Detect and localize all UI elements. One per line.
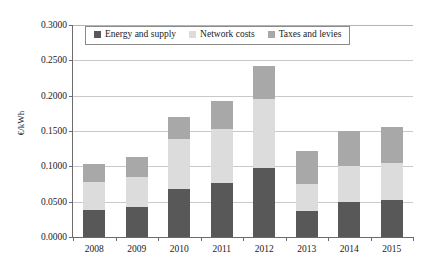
x-axis-tick-label: 2009 (127, 244, 146, 254)
x-axis-tick-label: 2014 (340, 244, 359, 254)
y-axis-tick-label: 0.1000 (41, 161, 67, 171)
bar-stack[interactable] (338, 131, 360, 237)
x-axis-tick (413, 237, 414, 241)
bar-segment[interactable] (338, 131, 360, 166)
bar-segment[interactable] (83, 164, 105, 182)
bar-group[interactable] (371, 25, 414, 237)
legend-item-label: Energy and supply (105, 30, 176, 40)
y-axis-tick-label: 0.0000 (41, 232, 67, 242)
y-axis-tick-label: 0.0500 (41, 197, 67, 207)
y-axis-tick-label: 0.2000 (41, 91, 67, 101)
bar-stack[interactable] (168, 117, 190, 237)
bar-group[interactable] (328, 25, 371, 237)
bar-group[interactable] (73, 25, 116, 237)
bar-segment[interactable] (211, 101, 233, 129)
chart-legend: Energy and supplyNetwork costsTaxes and … (85, 26, 350, 45)
x-axis-tick-label: 2015 (382, 244, 401, 254)
bar-stack[interactable] (253, 66, 275, 237)
bar-segment[interactable] (338, 166, 360, 202)
bar-stack[interactable] (381, 127, 403, 237)
bar-segment[interactable] (83, 210, 105, 237)
x-axis-tick (201, 237, 202, 241)
x-axis-tick-label: 2010 (170, 244, 189, 254)
x-axis-tick (286, 237, 287, 241)
bar-segment[interactable] (168, 117, 190, 139)
bar-group[interactable] (286, 25, 329, 237)
bar-segment[interactable] (126, 157, 148, 177)
bar-segment[interactable] (211, 129, 233, 183)
plot-area: 0.00000.05000.10000.15000.20000.25000.30… (72, 25, 413, 238)
legend-item[interactable]: Network costs (189, 30, 255, 40)
bar-group[interactable] (116, 25, 159, 237)
bar-segment[interactable] (253, 168, 275, 237)
legend-item[interactable]: Energy and supply (94, 30, 176, 40)
bar-segment[interactable] (83, 182, 105, 210)
x-axis-tick-label: 2011 (212, 244, 231, 254)
bar-stack[interactable] (83, 164, 105, 237)
bar-segment[interactable] (296, 151, 318, 184)
bar-stack[interactable] (126, 157, 148, 237)
bar-segment[interactable] (253, 66, 275, 99)
x-axis-tick-label: 2013 (297, 244, 316, 254)
y-axis-title: €/kWh (16, 93, 26, 153)
bar-segment[interactable] (296, 211, 318, 237)
stacked-bar-chart: €/kWh 0.00000.05000.10000.15000.20000.25… (0, 0, 423, 276)
legend-swatch-icon (189, 31, 196, 38)
x-axis-tick-label: 2012 (255, 244, 274, 254)
bar-segment[interactable] (381, 127, 403, 163)
legend-item-label: Taxes and levies (279, 30, 342, 40)
x-axis-tick (371, 237, 372, 241)
x-axis-tick (328, 237, 329, 241)
bar-segment[interactable] (126, 207, 148, 237)
bar-segment[interactable] (381, 200, 403, 237)
x-axis-tick (243, 237, 244, 241)
bar-segment[interactable] (168, 139, 190, 189)
bar-segment[interactable] (338, 202, 360, 237)
legend-item-label: Network costs (200, 30, 255, 40)
legend-item[interactable]: Taxes and levies (268, 30, 342, 40)
bar-segment[interactable] (126, 177, 148, 207)
bars-layer (73, 25, 413, 237)
y-axis-tick-label: 0.3000 (41, 20, 67, 30)
bar-stack[interactable] (211, 101, 233, 237)
bar-group[interactable] (158, 25, 201, 237)
x-axis-tick-label: 2008 (85, 244, 104, 254)
legend-swatch-icon (94, 31, 101, 38)
bar-segment[interactable] (211, 183, 233, 237)
x-axis-tick (116, 237, 117, 241)
bar-stack[interactable] (296, 151, 318, 237)
bar-segment[interactable] (381, 163, 403, 200)
x-axis-tick (73, 237, 74, 241)
bar-group[interactable] (243, 25, 286, 237)
y-axis-tick-label: 0.1500 (41, 126, 67, 136)
bar-segment[interactable] (296, 184, 318, 211)
x-axis-tick (158, 237, 159, 241)
bar-group[interactable] (201, 25, 244, 237)
bar-segment[interactable] (168, 189, 190, 237)
bar-segment[interactable] (253, 99, 275, 169)
y-axis-tick-label: 0.2500 (41, 55, 67, 65)
legend-swatch-icon (268, 31, 275, 38)
